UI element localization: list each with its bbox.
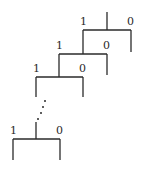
branch-label-left: 1 — [56, 39, 63, 52]
branch-label-left: 1 — [80, 15, 87, 28]
branch-label-right: 0 — [79, 62, 86, 75]
branch-label-right: 0 — [56, 124, 63, 137]
branch-label-right: 0 — [103, 39, 110, 52]
ellipsis-dots — [37, 100, 46, 120]
branch-label-left: 1 — [10, 124, 17, 137]
tree-node-level-4: 1 0 — [10, 122, 63, 160]
binary-tree-diagram: 1 0 1 0 1 0 1 0 — [0, 0, 142, 172]
branch-label-left: 1 — [33, 62, 40, 75]
tree-node-level-3: 1 0 — [33, 54, 86, 97]
branch-label-right: 0 — [127, 15, 134, 28]
